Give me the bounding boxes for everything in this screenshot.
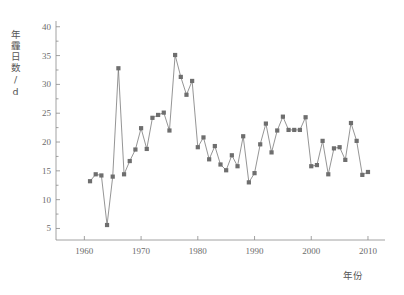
chart-figure: 年霾日数/d 年份 510152025303540 19601970198019… (0, 0, 404, 295)
data-point-marker (303, 115, 307, 119)
data-point-marker (167, 128, 171, 132)
data-point-marker (179, 75, 183, 79)
data-point-marker (224, 168, 228, 172)
data-point-marker (247, 180, 251, 184)
x-tick-label: 2010 (359, 246, 378, 256)
data-point-marker (338, 145, 342, 149)
y-tick-label: 35 (42, 51, 52, 61)
data-point-marker (201, 135, 205, 139)
data-point-marker (269, 150, 273, 154)
data-point-marker (94, 172, 98, 176)
data-point-marker (366, 170, 370, 174)
data-point-marker (230, 153, 234, 157)
y-tick-label: 30 (42, 79, 52, 89)
data-point-marker (105, 223, 109, 227)
data-point-marker (122, 172, 126, 176)
data-point-marker (196, 145, 200, 149)
data-point-marker (88, 179, 92, 183)
data-point-marker (292, 128, 296, 132)
data-point-marker (315, 163, 319, 167)
data-point-marker (184, 93, 188, 97)
data-point-marker (145, 147, 149, 151)
data-point-marker (264, 121, 268, 125)
data-point-marker (116, 66, 120, 70)
data-point-marker (332, 146, 336, 150)
data-point-marker (173, 53, 177, 57)
data-point-marker (156, 113, 160, 117)
y-tick-label: 15 (42, 166, 52, 176)
data-point-marker (321, 139, 325, 143)
data-point-marker (218, 162, 222, 166)
y-tick-label: 5 (47, 223, 52, 233)
data-point-marker (111, 175, 115, 179)
data-point-marker (150, 116, 154, 120)
data-series (88, 53, 370, 227)
data-point-marker (133, 147, 137, 151)
data-point-marker (360, 173, 364, 177)
y-tick-label: 25 (42, 108, 52, 118)
data-point-marker (309, 164, 313, 168)
y-tick-label: 20 (42, 137, 52, 147)
data-point-marker (241, 134, 245, 138)
data-point-marker (355, 139, 359, 143)
data-point-marker (128, 159, 132, 163)
y-tick-label: 10 (42, 195, 52, 205)
x-tick-label: 1980 (189, 246, 208, 256)
data-point-marker (190, 79, 194, 83)
data-point-marker (281, 115, 285, 119)
data-point-marker (326, 172, 330, 176)
y-tick-label: 40 (42, 22, 52, 32)
x-tick-label: 1960 (75, 246, 94, 256)
data-point-marker (258, 142, 262, 146)
data-point-marker (275, 128, 279, 132)
data-point-marker (162, 111, 166, 115)
line-chart-plot: 510152025303540 196019701980199020002010 (0, 0, 404, 295)
data-point-marker (252, 171, 256, 175)
data-point-marker (207, 157, 211, 161)
x-tick-label: 2000 (302, 246, 321, 256)
x-axis: 196019701980199020002010 (56, 236, 385, 256)
data-point-marker (349, 121, 353, 125)
data-point-marker (298, 128, 302, 132)
x-tick-label: 1970 (132, 246, 151, 256)
data-point-marker (139, 126, 143, 130)
x-tick-label: 1990 (246, 246, 265, 256)
y-axis: 510152025303540 (42, 21, 60, 240)
data-point-marker (286, 128, 290, 132)
data-point-marker (343, 158, 347, 162)
data-point-marker (99, 173, 103, 177)
data-point-marker (235, 164, 239, 168)
data-point-marker (213, 144, 217, 148)
